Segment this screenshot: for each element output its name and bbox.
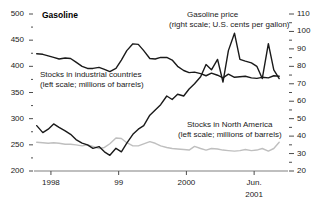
industrial-stocks-annotation-line1: Stocks in industrial countries <box>40 70 141 79</box>
right-tick-label-30: 30 <box>297 149 321 158</box>
north-america-stocks-annotation: Stocks in North America (left scale; mil… <box>178 120 282 140</box>
left-tick-label-300: 300 <box>0 114 24 123</box>
north-america-stocks-annotation-line2: (left scale; millions of barrels) <box>178 130 282 140</box>
right-tick-label-100: 100 <box>297 26 321 35</box>
right-tick-label-90: 90 <box>297 44 321 53</box>
left-axis-ticks <box>29 14 33 171</box>
x-tick-label-0: 1998 <box>28 178 74 187</box>
north-america-stocks-annotation-line1: Stocks in North America <box>187 120 272 129</box>
industrial-stocks-annotation-line2: (left scale; millions of barrels) <box>40 80 144 90</box>
left-tick-label-500: 500 <box>0 9 24 18</box>
x-tick-label-1: 99 <box>96 178 142 187</box>
left-tick-label-250: 250 <box>0 140 24 149</box>
right-tick-label-80: 80 <box>297 61 321 70</box>
right-tick-label-70: 70 <box>297 79 321 88</box>
right-tick-label-20: 20 <box>297 166 321 175</box>
x-tick-label-3: Jun. <box>231 178 277 187</box>
right-tick-label-60: 60 <box>297 96 321 105</box>
x-tick-label-2: 2000 <box>163 178 209 187</box>
gasoline-price-annotation-line1: Gasoline price <box>187 10 238 19</box>
left-tick-label-400: 400 <box>0 61 24 70</box>
right-axis-ticks <box>289 14 294 171</box>
gasoline-chart-figure: Gasoline Gasoline price (right scale; U.… <box>0 0 330 207</box>
x-tick-label-3-line2: 2001 <box>231 190 277 199</box>
gasoline-price-annotation-line2: (right scale; U.S. cents per gallon) <box>169 20 290 30</box>
x-axis-ticks <box>51 171 254 175</box>
right-tick-label-40: 40 <box>297 131 321 140</box>
right-tick-label-110: 110 <box>297 9 321 18</box>
chart-title: Gasoline <box>42 10 78 20</box>
left-tick-label-450: 450 <box>0 35 24 44</box>
left-tick-label-350: 350 <box>0 88 24 97</box>
industrial-stocks-annotation: Stocks in industrial countries (left sca… <box>40 70 144 90</box>
left-tick-label-200: 200 <box>0 166 24 175</box>
chart-plot-area <box>0 0 330 207</box>
right-tick-label-50: 50 <box>297 114 321 123</box>
gasoline-price-annotation: Gasoline price (right scale; U.S. cents … <box>187 10 290 30</box>
